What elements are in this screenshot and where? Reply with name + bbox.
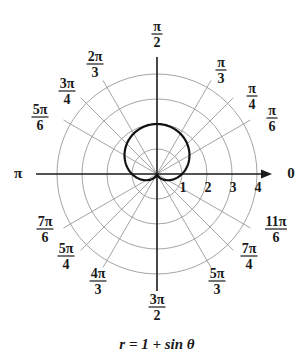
angle-label: 3π4 (59, 76, 76, 107)
angle-label: 5π4 (58, 241, 75, 272)
polar-plot: 1234 0π6π4π3π22π33π45π6π7π65π44π33π25π37… (0, 0, 302, 354)
angle-label-numerator: π (217, 55, 225, 70)
angle-label: π (14, 165, 23, 181)
angle-label-denominator: 6 (37, 118, 44, 133)
angle-label: 11π6 (265, 214, 287, 245)
grid-spoke (103, 174, 157, 268)
angle-label: π2 (152, 19, 163, 50)
angle-label-denominator: 6 (273, 230, 280, 245)
angle-label-text: 0 (287, 165, 295, 181)
radial-tick-label: 1 (180, 180, 187, 195)
grid-spoke (157, 80, 211, 174)
angle-label-numerator: 11π (266, 214, 287, 229)
angle-label-numerator: 7π (38, 214, 53, 229)
angle-label-denominator: 6 (269, 119, 276, 134)
angle-label-denominator: 3 (95, 282, 102, 297)
radial-tick-label: 3 (230, 180, 237, 195)
angle-label-denominator: 3 (218, 71, 225, 86)
angle-label-denominator: 2 (154, 35, 161, 50)
angle-label: 7π4 (241, 241, 258, 272)
radial-tick-label: 2 (205, 180, 212, 195)
angle-label-numerator: π (153, 19, 161, 34)
angle-label: 0 (287, 165, 295, 181)
angle-label-numerator: 5π (59, 241, 74, 256)
angle-label-text: π (14, 165, 23, 181)
angle-label-denominator: 6 (42, 230, 49, 245)
angle-label-denominator: 3 (214, 282, 221, 297)
radial-tick-label: 4 (255, 180, 262, 195)
angle-label-numerator: 4π (91, 266, 106, 281)
chart-caption: r = 1 + sin θ (119, 336, 195, 352)
angle-label: 4π3 (90, 266, 107, 297)
angle-label-denominator: 3 (92, 65, 99, 80)
angle-label-numerator: 3π (150, 292, 165, 307)
grid-spoke (63, 174, 157, 228)
angle-label: 2π3 (87, 49, 104, 80)
angle-label: 5π6 (32, 102, 49, 133)
angle-label: π6 (267, 103, 278, 134)
arrow-right-icon (261, 170, 272, 179)
angle-label-denominator: 2 (154, 308, 161, 323)
angle-label-denominator: 4 (63, 257, 70, 272)
angle-label: 5π3 (209, 266, 226, 297)
angle-label-denominator: 4 (64, 92, 71, 107)
angle-label-denominator: 4 (246, 257, 253, 272)
angle-label-numerator: 7π (242, 241, 257, 256)
angle-label-numerator: 5π (210, 266, 225, 281)
angle-label-numerator: 2π (88, 49, 103, 64)
angle-label: 7π6 (37, 214, 54, 245)
angle-label-numerator: 3π (60, 76, 75, 91)
angle-label-numerator: 5π (33, 102, 48, 117)
angle-label: π3 (216, 55, 227, 86)
angle-label: 3π2 (149, 292, 166, 323)
angle-label-denominator: 4 (249, 97, 256, 112)
angle-label-numerator: π (248, 81, 256, 96)
angle-label: π4 (247, 81, 258, 112)
radial-tick-labels: 1234 (180, 180, 262, 195)
angle-label-numerator: π (268, 103, 276, 118)
grid-spoke (103, 80, 157, 174)
